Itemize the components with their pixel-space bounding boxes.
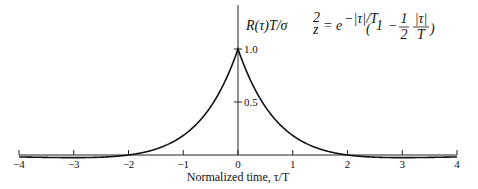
formula-frac2-den: T bbox=[417, 27, 426, 42]
autocorrelation-chart: −4−3−2−101234 0.51.0 Normalized time, τ/… bbox=[0, 0, 478, 189]
x-tick-label: 1 bbox=[290, 158, 296, 170]
formula-one: 1 bbox=[376, 18, 383, 33]
formula-base: e bbox=[336, 18, 342, 33]
formula-equals: = bbox=[323, 18, 332, 33]
formula-frac2-num: |τ| bbox=[415, 11, 428, 26]
y-tick-label: 1.0 bbox=[244, 43, 258, 55]
formula-frac1-num: 1 bbox=[401, 11, 408, 26]
formula-annotation: R(τ)T/σ 2 z = e −|τ|/T ( 1 − 1 2 |τ| T ) bbox=[245, 10, 435, 42]
x-axis-title: Normalized time, τ/T bbox=[187, 170, 290, 184]
x-tick-label: 3 bbox=[400, 158, 406, 170]
x-tick-label: 0 bbox=[235, 158, 241, 170]
formula-lhs-sub: z bbox=[312, 22, 319, 37]
x-tick-label: 2 bbox=[345, 158, 351, 170]
formula-lhs: R(τ)T/σ bbox=[245, 18, 289, 34]
x-tick-label: −1 bbox=[177, 158, 189, 170]
formula-paren-close: ) bbox=[429, 21, 435, 37]
x-tick-label: −2 bbox=[123, 158, 135, 170]
y-tick-label: 0.5 bbox=[244, 96, 258, 108]
formula-minus: − bbox=[388, 18, 397, 33]
x-ticks: −4−3−2−101234 bbox=[13, 150, 460, 170]
formula-frac1-den: 2 bbox=[401, 27, 408, 42]
x-tick-label: −4 bbox=[13, 158, 25, 170]
formula-exponent: −|τ|/T bbox=[344, 11, 379, 26]
x-tick-label: −3 bbox=[68, 158, 80, 170]
x-tick-label: 4 bbox=[454, 158, 460, 170]
